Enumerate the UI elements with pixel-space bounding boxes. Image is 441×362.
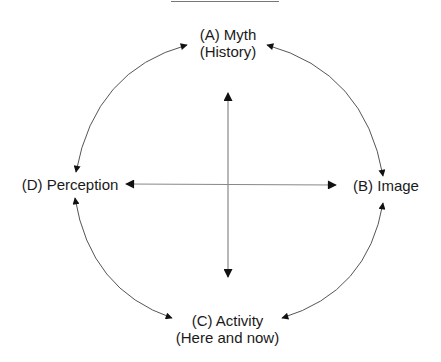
node-b-title: (B) Image xyxy=(346,177,426,194)
node-c-subtitle: (Here and now) xyxy=(165,329,290,346)
arc-d-c-arrow xyxy=(75,198,172,318)
node-a-title: (A) Myth xyxy=(178,26,278,43)
node-d-perception: (D) Perception xyxy=(18,176,122,193)
arc-b-c-arrow xyxy=(282,203,383,318)
arc-a-d-arrow xyxy=(76,45,187,172)
node-b-image: (B) Image xyxy=(346,177,426,194)
horizontal-axis-arrow xyxy=(126,184,336,185)
node-d-title: (D) Perception xyxy=(18,176,122,193)
node-c-title: (C) Activity xyxy=(165,312,290,329)
node-c-activity: (C) Activity (Here and now) xyxy=(165,312,290,346)
arc-a-b-arrow xyxy=(267,45,383,176)
node-a-subtitle: (History) xyxy=(178,43,278,60)
node-a-myth: (A) Myth (History) xyxy=(178,26,278,60)
